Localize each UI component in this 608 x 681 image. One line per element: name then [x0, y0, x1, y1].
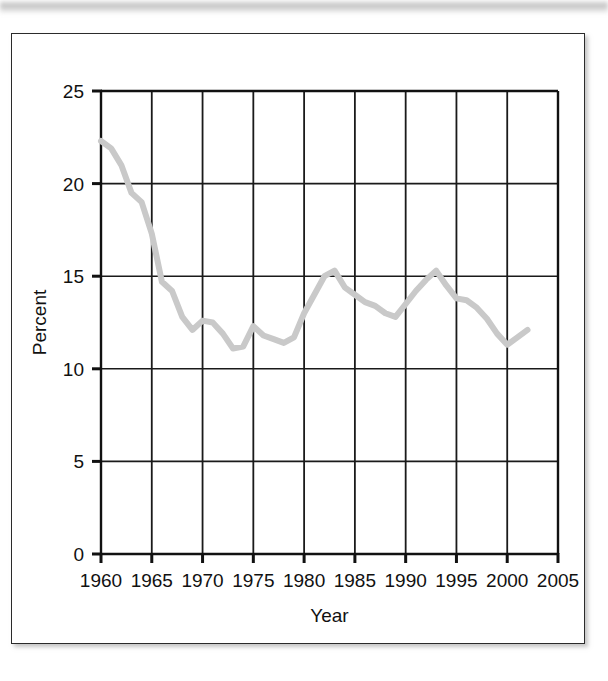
scan-smudge-artifact — [0, 0, 608, 14]
x-tick-label: 1960 — [80, 570, 122, 591]
y-tick-label: 20 — [63, 174, 84, 195]
x-tick-label: 1980 — [283, 570, 325, 591]
x-tick-label: 1975 — [232, 570, 274, 591]
y-tick-label: 15 — [63, 266, 84, 287]
x-tick-label: 1995 — [435, 570, 477, 591]
x-axis-title: Year — [310, 605, 349, 626]
y-tick-label: 25 — [63, 81, 84, 102]
y-tick-label: 5 — [73, 451, 84, 472]
x-tick-label: 2005 — [537, 570, 579, 591]
x-tick-label: 1965 — [131, 570, 173, 591]
chart-page: 0510152025 19601965197019751980198519901… — [0, 0, 608, 681]
y-tick-label: 0 — [73, 544, 84, 565]
y-tick-label: 10 — [63, 359, 84, 380]
line-chart: 0510152025 19601965197019751980198519901… — [12, 34, 584, 643]
x-tick-label: 1970 — [181, 570, 223, 591]
x-tick-label: 1985 — [334, 570, 376, 591]
x-tick-label: 2000 — [486, 570, 528, 591]
y-axis-title: Percent — [29, 289, 50, 355]
x-tick-label: 1990 — [385, 570, 427, 591]
figure-frame: 0510152025 19601965197019751980198519901… — [11, 33, 585, 644]
